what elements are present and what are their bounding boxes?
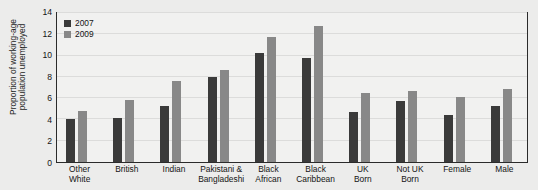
bar-2007[interactable]: [160, 106, 169, 162]
x-axis-label-line: Born: [386, 175, 433, 185]
x-axis-label-line: White: [56, 175, 103, 185]
bar-group: [482, 13, 529, 162]
x-axis-label-line: Born: [339, 175, 386, 185]
bar-2007[interactable]: [302, 58, 311, 162]
legend-label: 2007: [75, 19, 94, 27]
x-axis-label-line: Indian: [150, 165, 197, 175]
y-axis-tick-12: 12: [22, 29, 52, 39]
bar-chart: Proportion of working-age population une…: [0, 0, 538, 190]
y-axis-tick-4: 4: [22, 115, 52, 125]
bar-2007[interactable]: [255, 53, 264, 162]
bar-2009[interactable]: [220, 70, 229, 162]
bar-2007[interactable]: [491, 106, 500, 162]
bar-group: [199, 13, 246, 162]
x-axis-label-line: Bangladeshi: [198, 175, 245, 185]
bar-2007[interactable]: [444, 115, 453, 162]
bar-2007[interactable]: [396, 101, 405, 162]
x-axis-label-black-african: BlackAfrican: [245, 165, 292, 184]
bar-2007[interactable]: [208, 77, 217, 162]
x-axis-category-labels: OtherWhiteBritishIndianPakistani &Bangla…: [56, 165, 528, 190]
bar-group: [387, 13, 434, 162]
x-axis-label-pakistani-bangladeshi: Pakistani &Bangladeshi: [198, 165, 245, 184]
y-axis-tick-8: 8: [22, 72, 52, 82]
legend-item-2007[interactable]: 2007: [64, 18, 94, 28]
bar-2009[interactable]: [456, 97, 465, 162]
bar-2009[interactable]: [314, 26, 323, 162]
x-axis-label-not-uk-born: Not UKBorn: [386, 165, 433, 184]
x-axis-label-indian: Indian: [150, 165, 197, 175]
x-axis-label-other-white: OtherWhite: [56, 165, 103, 184]
y-axis-tick-0: 0: [22, 158, 52, 168]
bars-layer: [57, 13, 527, 162]
bar-group: [104, 13, 151, 162]
bar-2009[interactable]: [267, 37, 276, 162]
x-axis-label-british: British: [103, 165, 150, 175]
legend-item-2009[interactable]: 2009: [64, 29, 94, 39]
bar-2009[interactable]: [172, 81, 181, 162]
legend-swatch-icon-2009: [64, 31, 71, 38]
bar-2009[interactable]: [125, 100, 134, 162]
x-axis-label-line: British: [103, 165, 150, 175]
x-axis-label-uk-born: UKBorn: [339, 165, 386, 184]
bar-2007[interactable]: [66, 119, 75, 162]
y-axis-tick-10: 10: [22, 50, 52, 60]
y-axis-tick-14: 14: [22, 7, 52, 17]
x-axis-label-black-caribbean: BlackCaribbean: [292, 165, 339, 184]
bar-group: [151, 13, 198, 162]
bar-group: [293, 13, 340, 162]
chart-legend: 20072009: [64, 18, 94, 39]
bar-2009[interactable]: [503, 89, 512, 162]
bar-2009[interactable]: [78, 111, 87, 162]
bar-2007[interactable]: [349, 112, 358, 162]
x-axis-label-line: Male: [481, 165, 528, 175]
legend-swatch-icon-2007: [64, 20, 71, 27]
bar-group: [340, 13, 387, 162]
x-axis-label-line: Female: [434, 165, 481, 175]
legend-label: 2009: [75, 30, 94, 38]
x-axis-label-line: Caribbean: [292, 175, 339, 185]
bar-2009[interactable]: [408, 91, 417, 162]
x-axis-label-line: African: [245, 175, 292, 185]
bar-group: [435, 13, 482, 162]
bar-2007[interactable]: [113, 118, 122, 162]
x-axis-label-male: Male: [481, 165, 528, 175]
y-axis-tick-6: 6: [22, 93, 52, 103]
x-axis-label-female: Female: [434, 165, 481, 175]
bar-group: [246, 13, 293, 162]
y-axis-tick-2: 2: [22, 136, 52, 146]
bar-2009[interactable]: [361, 93, 370, 162]
plot-area: 20072009: [56, 12, 528, 163]
plot-inner: 20072009: [57, 13, 527, 162]
y-axis-tick-labels: 02468101214: [22, 0, 52, 190]
